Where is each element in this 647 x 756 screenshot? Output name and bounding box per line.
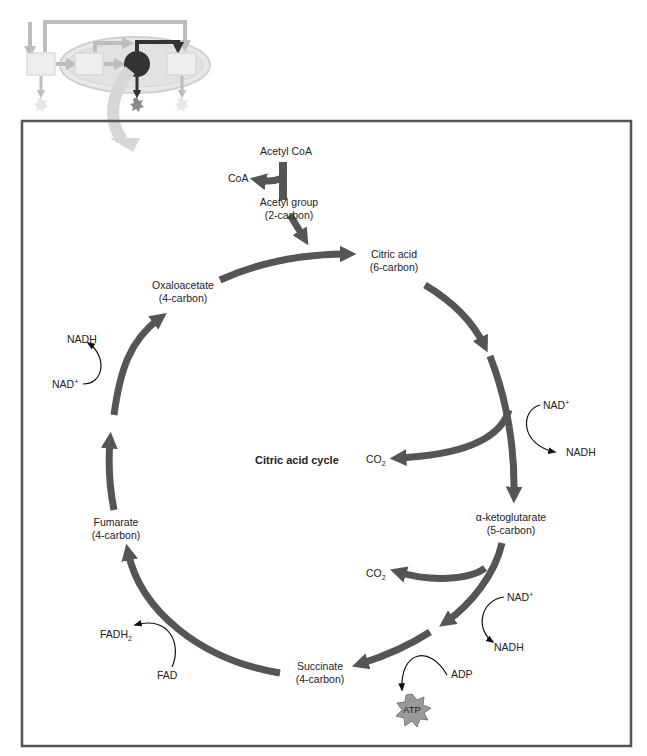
- nad-plus-label-3: NAD+: [52, 378, 78, 391]
- co2-label-1: CO2: [366, 453, 386, 466]
- cycle-frame: [22, 121, 631, 746]
- co2-label-2: CO2: [366, 567, 386, 580]
- nad-plus-label-2: NAD+: [507, 591, 533, 604]
- nad-to-nadh-arrow-2: [482, 597, 504, 642]
- acetyl-group-carbons: (2-carbon): [254, 209, 324, 222]
- electron-transport-box: [167, 53, 196, 75]
- nad-to-nadh-arrow-1: [526, 405, 555, 452]
- fad-label: FAD: [157, 669, 177, 682]
- citric-acid-carbons: (6-carbon): [364, 261, 424, 274]
- fadh2-label: FADH2: [100, 628, 132, 641]
- glycolysis-box: [27, 53, 55, 75]
- arrow-citrate-step1: [425, 285, 484, 345]
- nad-plus-label-1: NAD+: [543, 399, 569, 412]
- alpha-ketoglutarate-name: α-ketoglutarate: [466, 511, 556, 524]
- cycle-title: Citric acid cycle: [255, 454, 339, 467]
- adp-to-atp-arrow: [402, 656, 447, 690]
- fadh-subscript: 2: [128, 635, 132, 642]
- nad-superscript: +: [529, 591, 533, 598]
- co2-release-arrow-1: [398, 410, 509, 458]
- arrow-malate-to-oxaloacetate: [114, 318, 160, 415]
- pyruvate-oxidation-box: [75, 53, 103, 75]
- nad-base: NAD: [507, 591, 529, 603]
- alpha-ketoglutarate-label: α-ketoglutarate (5-carbon): [466, 511, 556, 537]
- coa-release-arrow: [258, 178, 283, 181]
- arrow-succinate-to-fumarate: [128, 552, 280, 673]
- co2-subscript: 2: [382, 460, 386, 467]
- oxaloacetate-name: Oxaloacetate: [148, 279, 218, 292]
- atp-burst-icon: [130, 97, 144, 112]
- cycle-arrows: [109, 162, 514, 673]
- nad-base: NAD: [543, 399, 565, 411]
- diagram-canvas: [0, 0, 647, 756]
- arrow-to-succinate: [360, 632, 430, 664]
- acetyl-group-name: Acetyl group: [254, 196, 324, 209]
- arrow-alpha-kg-to-succinyl: [446, 543, 502, 622]
- succinate-label: Succinate (4-carbon): [290, 660, 350, 686]
- alpha-ketoglutarate-carbons: (5-carbon): [466, 524, 556, 537]
- atp-label: ATP: [399, 703, 425, 716]
- coa-label: CoA: [228, 172, 248, 185]
- oxaloacetate-carbons: (4-carbon): [148, 292, 218, 305]
- fadh-base: FADH: [100, 628, 128, 640]
- citric-acid-name: Citric acid: [364, 248, 424, 261]
- nad-superscript: +: [565, 399, 569, 406]
- succinate-carbons: (4-carbon): [290, 673, 350, 686]
- nad-superscript: +: [74, 378, 78, 385]
- co2-base: CO: [366, 567, 382, 579]
- nad-to-nadh-arrow-3: [83, 343, 101, 384]
- oxaloacetate-label: Oxaloacetate (4-carbon): [148, 279, 218, 305]
- nadh-label-1: NADH: [566, 446, 596, 459]
- atp-burst-icon: [175, 97, 189, 112]
- atp-burst-icon: [34, 97, 48, 112]
- fumarate-label: Fumarate (4-carbon): [86, 516, 146, 542]
- nad-base: NAD: [52, 378, 74, 390]
- acetyl-group-label: Acetyl group (2-carbon): [254, 196, 324, 222]
- fumarate-name: Fumarate: [86, 516, 146, 529]
- arrow-fumarate-to-malate: [109, 440, 114, 510]
- co2-base: CO: [366, 453, 382, 465]
- acetyl-coa-label: Acetyl CoA: [256, 145, 316, 158]
- nadh-label-2: NADH: [494, 641, 524, 654]
- respiration-overview-inset: [27, 22, 210, 152]
- arrow-oxaloacetate-to-citrate: [220, 254, 348, 280]
- co2-subscript: 2: [382, 574, 386, 581]
- fumarate-carbons: (4-carbon): [86, 529, 146, 542]
- adp-label: ADP: [451, 668, 473, 681]
- citric-acid-label: Citric acid (6-carbon): [364, 248, 424, 274]
- nadh-label-3: NADH: [67, 333, 97, 346]
- co2-release-arrow-2: [398, 568, 485, 578]
- succinate-name: Succinate: [290, 660, 350, 673]
- fad-to-fadh2-arrow: [135, 623, 175, 667]
